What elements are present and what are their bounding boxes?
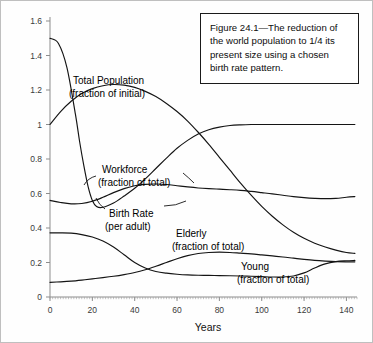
series-label-secondary: (per adult) — [105, 221, 151, 232]
series-label-primary: Workforce — [102, 164, 148, 175]
x-tick-label: 80 — [215, 305, 225, 315]
y-tick-label: 1 — [37, 120, 42, 130]
series-curve — [50, 233, 355, 277]
series-label-primary: Young — [241, 261, 269, 272]
series-label-primary: Elderly — [176, 228, 207, 239]
series-label-secondary: (fraction of initial) — [69, 88, 145, 99]
x-axis-title: Years — [195, 321, 221, 333]
workforce-leader-right — [183, 173, 194, 183]
x-tick-label: 100 — [255, 305, 269, 315]
x-tick-label: 120 — [297, 305, 311, 315]
y-tick-label: 0 — [37, 292, 42, 302]
x-tick-label: 60 — [172, 305, 182, 315]
y-tick-label: 0.6 — [30, 189, 42, 199]
series-label-primary: Total Population — [73, 75, 144, 86]
y-tick-label: 1.6 — [30, 16, 42, 26]
y-tick-label: 1.2 — [30, 85, 42, 95]
y-tick-label: 0.4 — [30, 223, 42, 233]
series-curve — [50, 184, 355, 204]
figure-container: 00.20.40.60.811.21.41.6 0204060801001201… — [0, 0, 373, 343]
x-tick-label: 20 — [88, 305, 98, 315]
birthrate-leader-right — [164, 201, 186, 206]
x-axis-ticks: 020406080100120140 — [48, 297, 354, 315]
y-tick-label: 1.4 — [30, 51, 42, 61]
y-tick-label: 0.2 — [30, 258, 42, 268]
x-tick-label: 40 — [130, 305, 140, 315]
x-tick-label: 140 — [339, 305, 353, 315]
y-tick-label: 0.8 — [30, 154, 42, 164]
series-annotations: Total Population(fraction of initial)Wor… — [69, 75, 309, 285]
figure-caption-box: Figure 24.1—The reduction of the world p… — [200, 13, 359, 84]
series-label-secondary: (fraction of total) — [237, 274, 309, 285]
series-label-secondary: (fraction of total) — [98, 177, 170, 188]
y-axis-ticks: 00.20.40.60.811.21.41.6 — [30, 16, 50, 302]
series-label-primary: Birth Rate — [109, 208, 154, 219]
series-label-secondary: (fraction of total) — [172, 241, 244, 252]
figure-caption-text: Figure 24.1—The reduction of the world p… — [210, 21, 349, 75]
x-tick-label: 0 — [48, 305, 53, 315]
